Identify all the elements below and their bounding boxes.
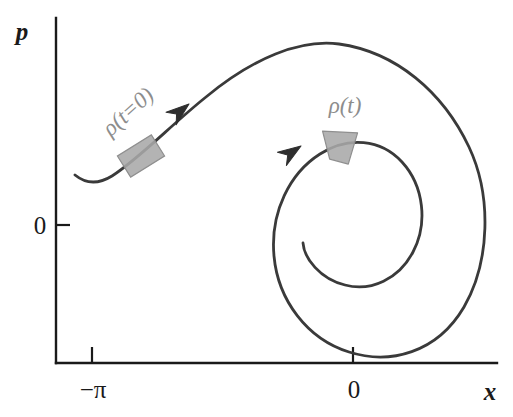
phase-space-cell-initial [117,135,164,177]
rho-time-label: ρ(t) [328,93,362,118]
phase-space-figure: p x 0 −π 0 ρ(t=0) ρ(t) [0,0,513,417]
x-tick-label-zero: 0 [348,376,361,403]
arrowheads-group [166,98,305,166]
y-axis-label: p [14,18,29,45]
axes-group [56,18,497,363]
x-axis-label: x [483,378,497,405]
flow-arrow-inner [277,139,305,165]
x-tick-label-minus-pi: −π [80,376,107,403]
phase-space-cell-evolved [319,129,357,164]
rho-initial-label: ρ(t=0) [97,82,159,141]
phase-space-plot: p x 0 −π 0 ρ(t=0) ρ(t) [0,0,513,417]
y-tick-label-zero: 0 [34,212,47,239]
